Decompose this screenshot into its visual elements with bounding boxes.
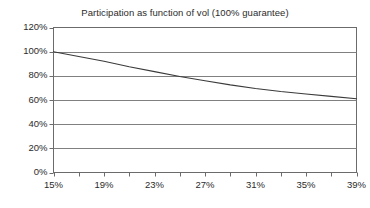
y-axis-tick-label: 20%	[6, 142, 48, 153]
y-axis-tick-label: 60%	[6, 94, 48, 105]
y-axis-ticks-group	[50, 29, 54, 174]
chart-container: Participation as function of vol (100% g…	[0, 0, 370, 208]
y-axis-tick-label: 120%	[6, 21, 48, 32]
y-axis-tick-label: 0%	[6, 166, 48, 177]
chart-plot-area	[0, 0, 370, 208]
x-axis-tick-label: 31%	[236, 179, 276, 190]
x-axis-tick-label: 23%	[135, 179, 175, 190]
x-axis-ticks-group	[55, 173, 358, 177]
x-axis-tick-label: 19%	[84, 179, 124, 190]
y-axis-tick-label: 100%	[6, 45, 48, 56]
y-axis-tick-label: 40%	[6, 118, 48, 129]
y-axis-tick-label: 80%	[6, 69, 48, 80]
x-axis-tick-label: 27%	[185, 179, 225, 190]
x-axis-tick-label: 15%	[34, 179, 74, 190]
x-axis-tick-label: 35%	[286, 179, 326, 190]
x-axis-tick-label: 39%	[337, 179, 370, 190]
